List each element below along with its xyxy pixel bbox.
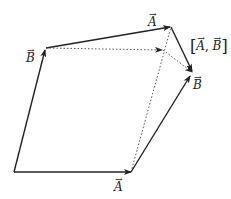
diagram-canvas bbox=[0, 0, 231, 199]
vector-b-left bbox=[14, 50, 45, 172]
vector-commutator bbox=[171, 27, 192, 71]
dotted-a-parallel bbox=[46, 48, 162, 50]
label-a-top: A bbox=[148, 16, 157, 28]
vector-diagram: A B [A, B] B A bbox=[0, 0, 231, 199]
label-a-bottom: A bbox=[114, 181, 123, 193]
label-commutator: [A, B] bbox=[190, 40, 228, 53]
vector-a-top bbox=[46, 27, 170, 48]
dotted-diagonal bbox=[131, 27, 171, 172]
label-b-left: B bbox=[26, 52, 35, 64]
label-b-right: B bbox=[193, 79, 202, 91]
vector-b-right bbox=[131, 76, 190, 172]
